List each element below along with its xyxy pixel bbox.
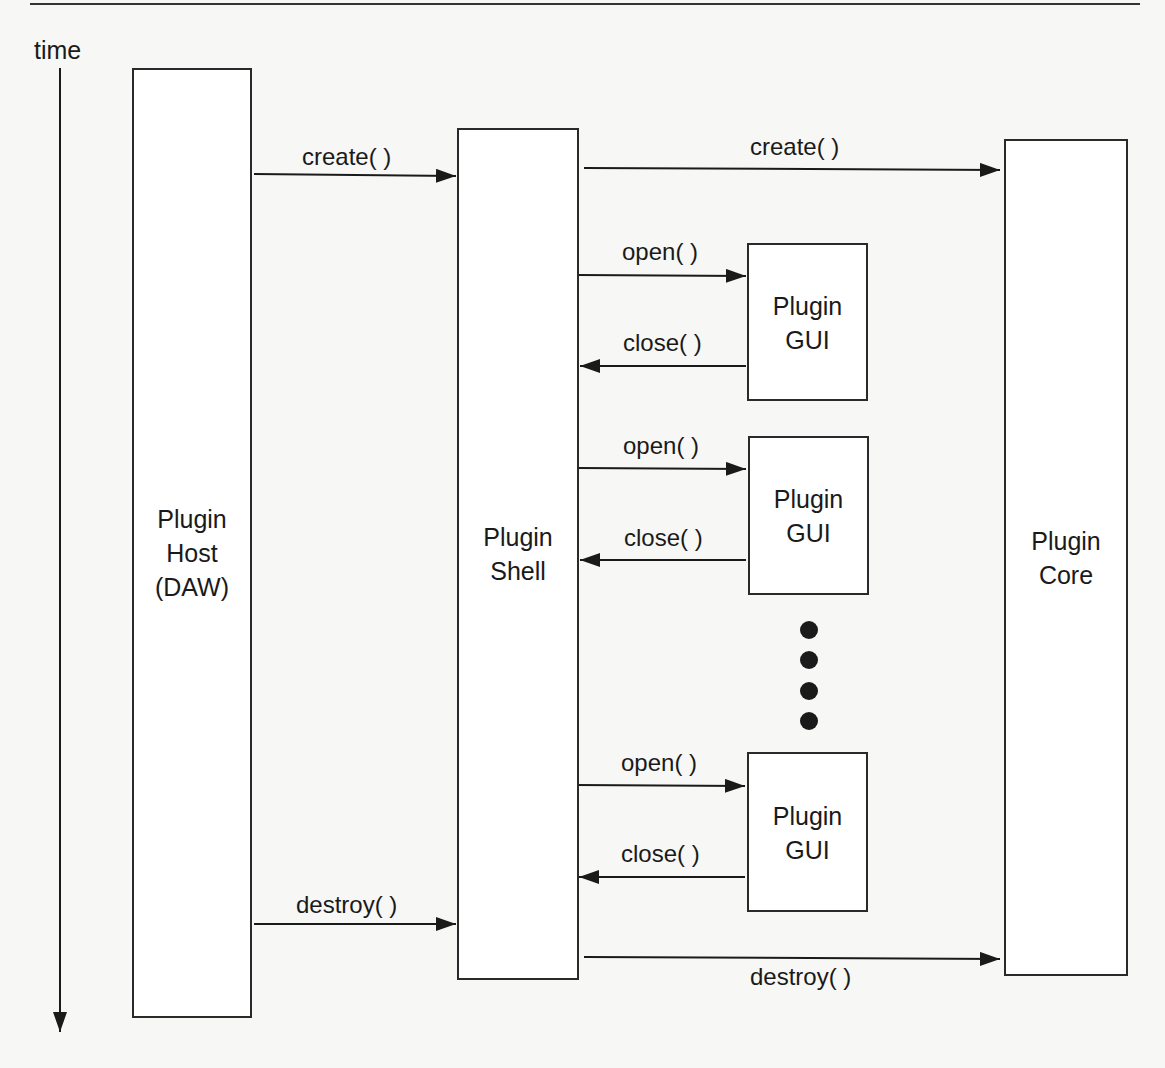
arrow-host-create	[254, 174, 456, 176]
msg-open-3: open( )	[621, 749, 697, 777]
plugin-shell-label: Plugin Shell	[459, 520, 577, 588]
msg-host-create: create( )	[302, 143, 391, 171]
arrow-shell-create	[584, 168, 1000, 170]
plugin-gui-box-3: Plugin GUI	[747, 752, 868, 912]
ellipsis-dot-1	[800, 621, 818, 639]
plugin-gui-box-1: Plugin GUI	[747, 243, 868, 401]
plugin-shell-lifeline: Plugin Shell	[457, 128, 579, 980]
arrow-open-1	[578, 275, 746, 276]
plugin-host-label: Plugin Host (DAW)	[134, 502, 250, 604]
msg-shell-create: create( )	[750, 133, 839, 161]
msg-open-1: open( )	[622, 238, 698, 266]
msg-close-2: close( )	[624, 524, 703, 552]
plugin-host-lifeline: Plugin Host (DAW)	[132, 68, 252, 1018]
arrow-open-3	[576, 785, 745, 786]
arrow-shell-destroy	[584, 957, 1000, 959]
plugin-gui-label-3: Plugin GUI	[749, 799, 866, 867]
msg-close-1: close( )	[623, 329, 702, 357]
plugin-core-lifeline: Plugin Core	[1004, 139, 1128, 976]
plugin-gui-label-2: Plugin GUI	[750, 482, 867, 550]
plugin-gui-label-1: Plugin GUI	[749, 289, 866, 357]
plugin-core-label: Plugin Core	[1006, 524, 1126, 592]
msg-host-destroy: destroy( )	[296, 891, 397, 919]
ellipsis-dot-2	[800, 651, 818, 669]
arrow-open-2	[578, 468, 746, 469]
ellipsis-dot-4	[800, 712, 818, 730]
msg-open-2: open( )	[623, 432, 699, 460]
plugin-gui-box-2: Plugin GUI	[748, 436, 869, 595]
msg-shell-destroy: destroy( )	[750, 963, 851, 991]
ellipsis-dot-3	[800, 682, 818, 700]
msg-close-3: close( )	[621, 840, 700, 868]
